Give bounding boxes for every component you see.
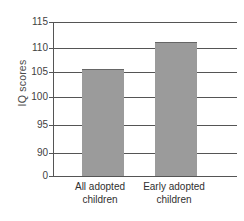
tick-label-105: 105 (31, 67, 48, 77)
tick-mark-110 (49, 48, 53, 49)
tick-label-100: 100 (31, 92, 48, 102)
gridline-100: 100 (53, 97, 237, 98)
bar-all-adopted-children (82, 69, 124, 176)
tick-label-95: 95 (37, 120, 48, 130)
plot-area: 115 110 105 100 95 90 0 (53, 22, 237, 176)
gridline-90: 90 (53, 153, 237, 154)
gridline-95: 95 (53, 125, 237, 126)
tick-mark-0 (49, 176, 53, 177)
axis-baseline-zero: 0 (53, 176, 237, 177)
tick-mark-115 (49, 22, 53, 23)
tick-mark-90 (49, 153, 53, 154)
bar-early-adopted-children (155, 42, 197, 176)
x-axis-label-early-adopted-children: Early adopted children (130, 180, 218, 206)
tick-mark-95 (49, 125, 53, 126)
tick-mark-105 (49, 72, 53, 73)
y-axis-title: IQ scores (14, 0, 30, 168)
gridline-115: 115 (53, 22, 237, 23)
tick-mark-100 (49, 97, 53, 98)
gridline-105: 105 (53, 72, 237, 73)
tick-label-90: 90 (37, 148, 48, 158)
gridline-110: 110 (53, 48, 237, 49)
bar-chart: IQ scores 115 110 105 100 95 90 (0, 0, 244, 221)
tick-label-115: 115 (32, 17, 48, 27)
tick-label-110: 110 (32, 43, 48, 53)
tick-label-0: 0 (42, 171, 48, 181)
